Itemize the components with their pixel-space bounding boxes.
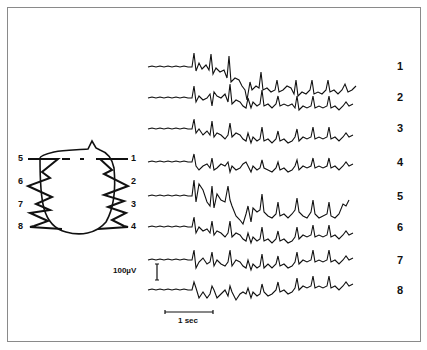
trace-1	[148, 53, 356, 100]
montage-label-1: 1	[131, 153, 136, 163]
channel-label-3: 3	[397, 122, 403, 134]
montage-label-8: 8	[18, 221, 23, 231]
channel-label-4: 4	[397, 156, 403, 168]
trace-8	[148, 276, 353, 300]
trace-3	[148, 119, 353, 143]
montage-lines	[28, 159, 128, 229]
montage-label-5: 5	[18, 153, 23, 163]
channel-label-1: 1	[397, 60, 403, 72]
channel-label-6: 6	[397, 221, 403, 233]
montage-label-2: 2	[131, 176, 136, 186]
eeg-traces	[148, 53, 356, 300]
electrode-montage-diagram	[0, 0, 427, 350]
channel-label-5: 5	[397, 190, 403, 202]
channel-label-8: 8	[397, 284, 403, 296]
trace-7	[148, 250, 353, 270]
channel-label-2: 2	[397, 91, 403, 103]
trace-5	[148, 180, 349, 224]
montage-label-3: 3	[131, 199, 136, 209]
channel-label-7: 7	[397, 254, 403, 266]
time-scale-label: 1 sec	[178, 316, 198, 325]
amplitude-scale-label: 100µV	[113, 266, 136, 275]
montage-label-6: 6	[18, 176, 23, 186]
trace-4	[148, 154, 353, 172]
montage-label-4: 4	[131, 221, 136, 231]
montage-label-7: 7	[18, 199, 23, 209]
trace-2	[148, 84, 353, 110]
head-outline	[40, 141, 115, 234]
